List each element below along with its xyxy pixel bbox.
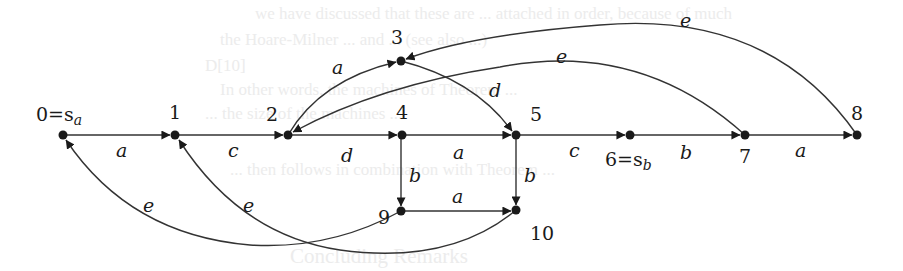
node-1 <box>171 131 180 140</box>
edge-label-4-5: a <box>453 141 464 163</box>
node-4 <box>398 131 407 140</box>
node-3 <box>397 57 406 66</box>
node-label-9: 9 <box>378 206 390 228</box>
edge-label-9-10: a <box>452 185 463 207</box>
edge-label-10-1: e <box>243 194 254 216</box>
edge-label-7-8: a <box>795 139 806 161</box>
edge-label-0-1: a <box>116 139 127 161</box>
node-label-0: 0=sa <box>36 103 82 128</box>
node-9 <box>397 207 406 216</box>
edge-label-3-5: d <box>489 79 501 101</box>
automaton-diagram: 0=sa 1 2 3 4 5 6=sb 7 8 9 10 a c a d d a… <box>0 0 903 271</box>
edge-8-3 <box>406 23 857 135</box>
node-label-6: 6=sb <box>605 148 652 173</box>
edge-label-5-6: c <box>569 139 580 161</box>
edge-label-7-2: e <box>556 45 567 67</box>
edge-label-9-0: e <box>143 194 154 216</box>
edge-label-1-2: c <box>228 139 239 161</box>
edge-label-4-9: b <box>409 164 421 186</box>
node-label-1: 1 <box>169 101 181 123</box>
node-8 <box>853 131 862 140</box>
node-7 <box>741 131 750 140</box>
edge-label-5-10: b <box>524 164 536 186</box>
node-0 <box>59 131 68 140</box>
node-label-8: 8 <box>851 102 863 124</box>
node-5 <box>512 131 521 140</box>
edge-label-8-3: e <box>680 9 691 31</box>
node-label-10: 10 <box>530 222 554 244</box>
edge-7-2 <box>293 61 745 135</box>
node-label-3: 3 <box>391 26 403 48</box>
edge-label-6-7: b <box>680 141 692 163</box>
node-2 <box>284 131 293 140</box>
node-label-5: 5 <box>530 103 542 125</box>
edge-label-2-3: a <box>332 56 343 78</box>
node-label-4: 4 <box>396 101 408 123</box>
node-label-7: 7 <box>739 145 751 167</box>
edge-label-2-4: d <box>341 144 353 166</box>
node-10 <box>512 206 521 215</box>
node-6 <box>626 131 635 140</box>
node-label-2: 2 <box>266 103 278 125</box>
